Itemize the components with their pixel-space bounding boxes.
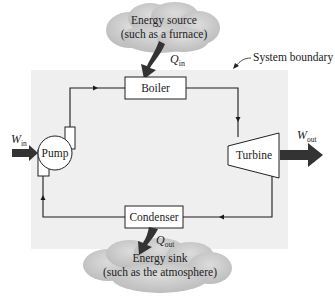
pump-label: Pump xyxy=(42,147,69,160)
q-in-label: Qin xyxy=(170,52,185,68)
energy-sink-label-line1: Energy sink xyxy=(132,252,187,265)
condenser-label: Condenser xyxy=(129,211,178,223)
w-in-label: Win xyxy=(11,132,27,148)
energy-sink-label-line2: (such as the atmosphere) xyxy=(103,266,217,279)
energy-source-label-line2: (such as a furnace) xyxy=(121,28,208,41)
system-boundary-label: System boundary xyxy=(253,51,333,64)
system-boundary-pointer-icon xyxy=(236,58,251,66)
boiler-label: Boiler xyxy=(141,82,170,94)
turbine-label: Turbine xyxy=(236,149,272,161)
rankine-cycle-diagram: Energy source (such as a furnace) Qin Sy… xyxy=(0,0,335,299)
w-out-label: Wout xyxy=(297,128,318,144)
energy-source-label-line1: Energy source xyxy=(131,14,197,27)
